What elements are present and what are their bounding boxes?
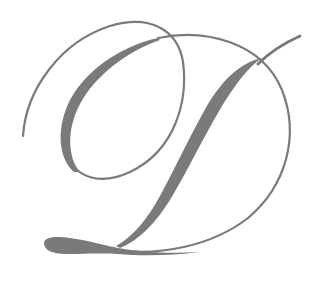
outer-left-arc (23, 22, 184, 179)
monogram-canvas: D (0, 0, 322, 282)
right-bowl-arc (115, 35, 290, 252)
left-loop-swell (61, 38, 160, 172)
top-right-flourish (258, 36, 300, 64)
script-d-icon (0, 0, 322, 282)
main-stem-stroke (116, 58, 262, 248)
